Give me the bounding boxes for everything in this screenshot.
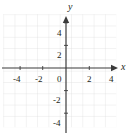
y-tick-label-neg2: -2 — [53, 96, 61, 105]
origin-label: 0 — [57, 75, 62, 84]
coordinate-grid-figure: -4 -2 0 2 4 4 2 -2 -4 y x — [0, 0, 131, 135]
x-tick-label-2: 2 — [87, 75, 92, 84]
y-tick-label-4: 4 — [57, 29, 62, 38]
x-axis-label: x — [121, 62, 125, 72]
y-axis-label: y — [68, 2, 72, 12]
x-tick-label-4: 4 — [109, 75, 114, 84]
y-tick-label-neg4: -4 — [53, 119, 61, 128]
x-tick-label-neg2: -2 — [35, 75, 43, 84]
x-tick-label-neg4: -4 — [13, 75, 21, 84]
y-tick-label-2: 2 — [57, 51, 62, 60]
cartesian-plane-svg — [0, 0, 131, 135]
